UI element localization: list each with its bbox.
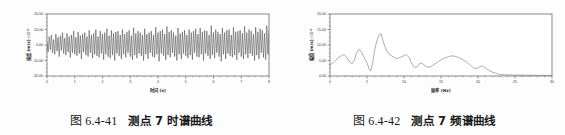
- x-tick-label: 5: [185, 80, 187, 84]
- y-tick-label: -20.00: [33, 74, 43, 78]
- y-tick-label: 10.00: [34, 28, 43, 32]
- time-history-chart-area: 012345678-20.00-10.000.0010.0020.00时间 (s…: [0, 0, 282, 104]
- x-tick-label: 25: [513, 80, 517, 84]
- y-tick-label: 5.00: [319, 59, 326, 63]
- x-tick-label: 4: [157, 80, 159, 84]
- x-tick-label: 5: [366, 80, 368, 84]
- svg-text:速度 (m/s) ×10-5: 速度 (m/s) ×10-5: [25, 29, 32, 61]
- y-tick-label: 0.00: [36, 43, 43, 47]
- y-tick-label: 20.00: [317, 12, 326, 16]
- x-tick-label: 1: [74, 80, 76, 84]
- figure-caption-text-left: 测点 7 时谱曲线: [128, 112, 212, 128]
- plot-frame: [330, 14, 552, 76]
- y-tick-label: 10.00: [317, 43, 326, 47]
- plot-frame: [47, 14, 269, 76]
- x-tick-label: 20: [476, 80, 480, 84]
- figure-caption-left: 图 6.4-41 测点 7 时谱曲线: [0, 104, 282, 135]
- figure-caption-text-right: 测点 7 频谱曲线: [411, 112, 495, 128]
- figure-caption-number-right: 图 6.4-42: [353, 111, 401, 129]
- x-axis-title: 频率 (Hz): [431, 87, 450, 94]
- x-tick-label: 3: [129, 80, 131, 84]
- x-tick-label: 30: [550, 80, 554, 84]
- x-tick-label: 10: [402, 80, 406, 84]
- x-tick-label: 2: [102, 80, 104, 84]
- svg-text:幅值 (m/s) ×10-5: 幅值 (m/s) ×10-5: [308, 29, 315, 61]
- y-axis-title: 速度 (m/s) ×10-5: [25, 29, 32, 61]
- x-axis-title: 时间 (s): [150, 87, 166, 94]
- figure-caption-number-left: 图 6.4-41: [70, 111, 118, 129]
- y-tick-label: -10.00: [33, 59, 43, 63]
- x-tick-label: 0: [46, 80, 48, 84]
- figure-time-history: 012345678-20.00-10.000.0010.0020.00时间 (s…: [0, 0, 282, 135]
- y-axis-title: 幅值 (m/s) ×10-5: [308, 29, 315, 61]
- x-tick-label: 8: [268, 80, 270, 84]
- figure-page: 012345678-20.00-10.000.0010.0020.00时间 (s…: [0, 0, 565, 135]
- spectrum-chart-area: 0510152025300.005.0010.0015.0020.00频率 (H…: [283, 0, 565, 104]
- x-tick-label: 6: [213, 80, 215, 84]
- y-tick-label: 20.00: [34, 12, 43, 16]
- x-tick-label: 15: [439, 80, 443, 84]
- x-tick-label: 7: [240, 80, 242, 84]
- figure-spectrum: 0510152025300.005.0010.0015.0020.00频率 (H…: [283, 0, 565, 135]
- spectrum-chart: 0510152025300.005.0010.0015.0020.00频率 (H…: [283, 0, 565, 104]
- figure-caption-right: 图 6.4-42 测点 7 频谱曲线: [283, 104, 565, 135]
- y-tick-label: 15.00: [317, 28, 326, 32]
- time-history-chart: 012345678-20.00-10.000.0010.0020.00时间 (s…: [0, 0, 282, 104]
- x-tick-label: 0: [329, 80, 331, 84]
- y-tick-label: 0.00: [319, 74, 326, 78]
